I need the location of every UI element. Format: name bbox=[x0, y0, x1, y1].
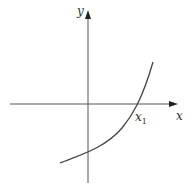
function-graph: y x x1 bbox=[0, 0, 193, 188]
x-axis-arrow-icon bbox=[169, 101, 178, 107]
x-axis bbox=[10, 101, 178, 107]
y-axis bbox=[85, 10, 91, 183]
y-axis-label: y bbox=[76, 4, 84, 18]
y-axis-arrow-icon bbox=[85, 10, 91, 19]
x-axis-label: x bbox=[176, 109, 183, 123]
x-intercept-label: x1 bbox=[135, 110, 147, 126]
